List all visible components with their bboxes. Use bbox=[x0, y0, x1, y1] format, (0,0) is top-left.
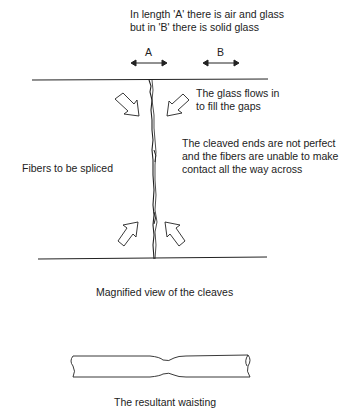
cleave-note-line3: contact all the way across bbox=[182, 163, 302, 176]
flow-arrow-upper-right-icon bbox=[167, 94, 189, 116]
double-arrow-b-icon bbox=[203, 60, 239, 66]
fiber-top-edge bbox=[32, 79, 268, 80]
diagram-graphics bbox=[0, 0, 355, 411]
cleave-note-line2: and the fibers are unable to make bbox=[182, 150, 338, 163]
flow-arrow-lower-left-icon bbox=[118, 222, 138, 246]
flow-arrow-upper-left-icon bbox=[115, 93, 139, 116]
flow-arrow-lower-right-icon bbox=[165, 222, 185, 246]
marker-b: B bbox=[217, 46, 224, 59]
marker-a: A bbox=[145, 46, 152, 59]
flow-note-line2: to fill the gaps bbox=[196, 100, 261, 113]
top-note-line2: but in 'B' there is solid glass bbox=[130, 21, 259, 34]
flow-note-line1: The glass flows in bbox=[196, 87, 279, 100]
double-arrow-a-icon bbox=[131, 60, 167, 66]
fiber-splice-diagram: In length 'A' there is air and glass but… bbox=[0, 0, 355, 411]
cleave-note-line1: The cleaved ends are not perfect bbox=[182, 137, 336, 150]
waisting-caption: The resultant waisting bbox=[114, 396, 216, 409]
waisted-fiber bbox=[71, 355, 250, 377]
top-note-line1: In length 'A' there is air and glass bbox=[130, 8, 284, 21]
fibers-label: Fibers to be spliced bbox=[22, 162, 113, 175]
magnified-caption: Magnified view of the cleaves bbox=[96, 286, 233, 299]
fiber-bottom-edge bbox=[38, 257, 267, 259]
